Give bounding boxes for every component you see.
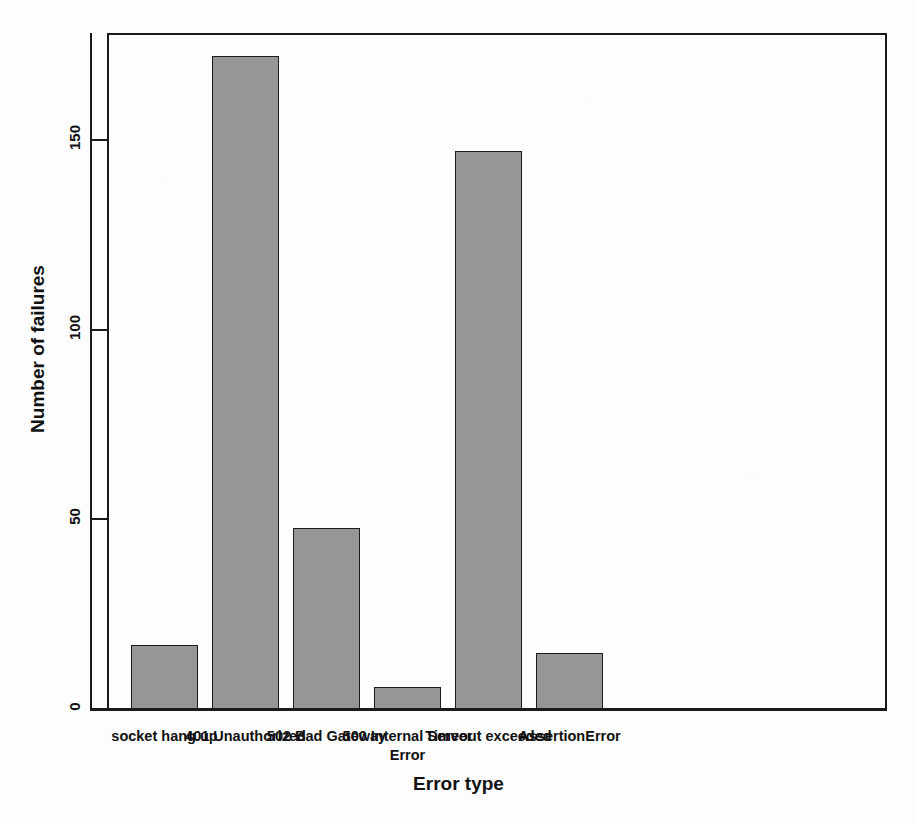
y-tick-150: [90, 139, 107, 141]
bar-502-bad-gateway: [293, 528, 360, 710]
x-axis-title: Error type: [0, 773, 917, 795]
y-axis-line: [90, 33, 92, 710]
bar-401-unauthorized: [212, 56, 279, 710]
y-tick-100: [90, 329, 107, 331]
y-axis-title: Number of failures: [27, 249, 49, 449]
bar-500-internal-server: [374, 687, 441, 710]
bar-timeout-exceeded: [455, 151, 522, 710]
y-tick-label-100: 100: [66, 310, 83, 346]
x-axis-line: [90, 708, 887, 711]
y-tick-label-50: 50: [66, 499, 83, 535]
bars-layer: [107, 33, 887, 710]
bar-assertionerror: [536, 653, 603, 710]
y-tick-label-150: 150: [66, 120, 83, 156]
y-tick-50: [90, 518, 107, 520]
y-tick-label-0: 0: [66, 689, 83, 725]
x-tick-label-line1: AssertionError: [500, 727, 640, 746]
x-tick-label-assertionerror: AssertionError: [500, 727, 640, 746]
bar-chart: 150 100 50 0 Number of failures socket h…: [0, 0, 917, 824]
bar-socket-hang-up: [131, 645, 198, 710]
x-tick-label-line2: Error: [338, 746, 478, 765]
